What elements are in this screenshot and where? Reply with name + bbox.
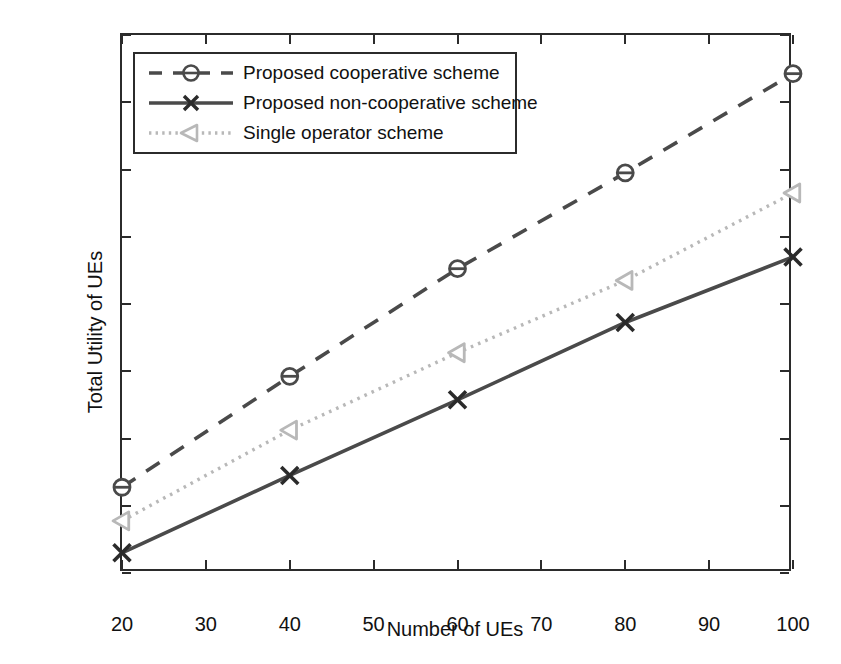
series-x bbox=[114, 248, 802, 561]
legend-item[interactable]: Proposed cooperative scheme bbox=[145, 58, 515, 88]
legend-swatch-non-cooperative bbox=[145, 91, 237, 115]
x-tick-label: 100 bbox=[776, 613, 809, 636]
data-point-marker bbox=[281, 467, 298, 484]
series-line bbox=[122, 257, 793, 553]
x-tick-label: 30 bbox=[195, 613, 217, 636]
x-tick-label: 90 bbox=[698, 613, 720, 636]
x-tick-label: 70 bbox=[530, 613, 552, 636]
legend-label: Single operator scheme bbox=[243, 122, 444, 144]
chart-legend: Proposed cooperative scheme Proposed non… bbox=[133, 52, 517, 154]
x-tick-label: 60 bbox=[446, 613, 468, 636]
data-point-marker bbox=[616, 271, 632, 289]
x-tick-label: 20 bbox=[111, 613, 133, 636]
y-axis-title: Total Utility of UEs bbox=[84, 251, 107, 413]
series-triangle-left bbox=[113, 184, 800, 530]
legend-label: Proposed non-cooperative scheme bbox=[243, 92, 538, 114]
legend-swatch-cooperative bbox=[145, 61, 237, 85]
legend-swatch-single-operator bbox=[145, 121, 237, 145]
data-point-marker bbox=[281, 421, 297, 439]
legend-label: Proposed cooperative scheme bbox=[243, 62, 500, 84]
data-point-marker bbox=[113, 512, 129, 530]
data-point-marker bbox=[449, 391, 466, 408]
x-tick-label: 50 bbox=[363, 613, 385, 636]
legend-item[interactable]: Proposed non-cooperative scheme bbox=[145, 88, 515, 118]
plot-area: 20406080100120140160180 2030405060708090… bbox=[120, 33, 791, 571]
data-point-marker bbox=[449, 344, 465, 362]
data-point-marker bbox=[617, 314, 634, 331]
legend-item[interactable]: Single operator scheme bbox=[145, 118, 515, 148]
figure-canvas: Total Utility of UEs Number of UEs 20406… bbox=[0, 0, 841, 664]
data-point-marker bbox=[785, 248, 802, 265]
data-point-marker bbox=[114, 544, 131, 561]
x-tick-label: 80 bbox=[614, 613, 636, 636]
x-tick-label: 40 bbox=[279, 613, 301, 636]
data-point-marker bbox=[784, 184, 800, 202]
